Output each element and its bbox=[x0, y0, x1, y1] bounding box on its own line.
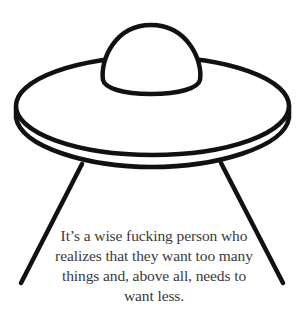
quote-line-2: realizes that they want too many bbox=[40, 246, 268, 266]
quote-line-4: want less. bbox=[40, 286, 268, 306]
quote-card: It’s a wise fucking person who realizes … bbox=[0, 0, 308, 323]
quote-line-3: things and, above all, needs to bbox=[40, 266, 268, 286]
quote-line-1: It’s a wise fucking person who bbox=[40, 226, 268, 246]
ufo-dome bbox=[103, 25, 201, 94]
quote-text: It’s a wise fucking person who realizes … bbox=[40, 226, 268, 306]
